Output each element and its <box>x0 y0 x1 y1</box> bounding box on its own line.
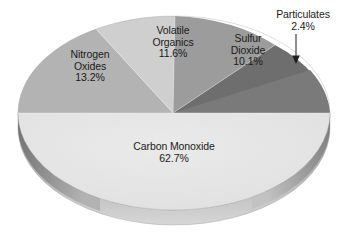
pie-chart-svg <box>0 0 348 238</box>
pie-chart-figure: Nitrogen Oxides 13.2% Volatile Organics … <box>0 0 348 238</box>
